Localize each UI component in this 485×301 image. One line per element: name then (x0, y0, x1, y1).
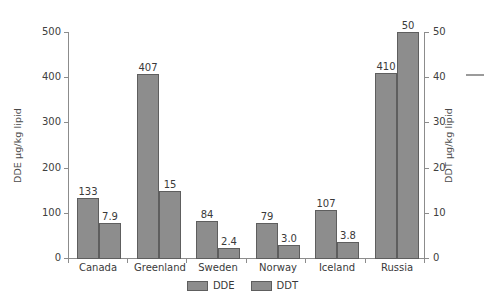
y-axis-title-right: DDT µg/kg lipid (443, 98, 454, 194)
bar-label-ddt-russia: 50 (388, 20, 428, 31)
y-ticklabel-left-0: 0 (27, 252, 61, 263)
legend-label-dde: DDE (213, 280, 235, 291)
y-ticklabel-left-100: 100 (27, 207, 61, 218)
bar-ddt-canada[interactable] (99, 223, 121, 259)
stray-rule-mark (466, 74, 484, 76)
y-axis-left-line (68, 32, 69, 259)
x-axis-label-norway: Norway (258, 262, 298, 273)
y-ticklabel-left-400: 400 (27, 71, 61, 82)
y-ticklabel-left-200: 200 (27, 162, 61, 173)
bar-label-dde-sweden: 84 (187, 209, 227, 220)
y-tick-right-30 (425, 122, 429, 123)
y-tick-right-10 (425, 213, 429, 214)
y-ticklabel-left-500: 500 (27, 26, 61, 37)
y-ticklabel-left-300: 300 (27, 116, 61, 127)
x-axis-label-iceland: Iceland (317, 262, 357, 273)
y-axis-title-left: DDE µg/kg lipid (12, 98, 23, 194)
y-tick-left-300 (64, 122, 68, 123)
bar-label-ddt-canada: 7.9 (90, 211, 130, 222)
bar-dde-canada[interactable] (77, 198, 99, 259)
bar-dde-greenland[interactable] (137, 74, 159, 259)
y-tick-left-400 (64, 77, 68, 78)
chart-legend: DDE DDT (0, 280, 485, 291)
y-ticklabel-right-50: 50 (433, 26, 467, 37)
y-ticklabel-right-20: 20 (433, 162, 467, 173)
y-tick-right-40 (425, 77, 429, 78)
y-ticklabel-right-10: 10 (433, 207, 467, 218)
x-tick-1 (127, 259, 128, 263)
y-ticklabel-right-40: 40 (433, 71, 467, 82)
y-ticklabel-right-0: 0 (433, 252, 467, 263)
y-tick-right-20 (425, 168, 429, 169)
bar-ddt-norway[interactable] (278, 245, 300, 259)
bar-label-dde-iceland: 107 (306, 198, 346, 209)
bar-label-ddt-iceland: 3.8 (328, 230, 368, 241)
y-tick-right-50 (425, 32, 429, 33)
bar-label-dde-greenland: 407 (128, 62, 168, 73)
y-tick-right-0 (425, 258, 429, 259)
x-tick-0 (68, 259, 69, 263)
x-tick-4 (305, 259, 306, 263)
x-tick-5 (365, 259, 366, 263)
bar-label-dde-canada: 133 (68, 186, 108, 197)
bar-label-ddt-greenland: 15 (150, 179, 190, 190)
y-ticklabel-right-30: 30 (433, 116, 467, 127)
y-axis-right-line (424, 32, 425, 259)
y-tick-left-100 (64, 213, 68, 214)
bar-label-dde-russia: 410 (366, 61, 406, 72)
bar-label-ddt-sweden: 2.4 (209, 236, 249, 247)
legend-label-ddt: DDT (277, 280, 299, 291)
x-axis-label-greenland: Greenland (134, 262, 184, 273)
bar-ddt-iceland[interactable] (337, 242, 359, 259)
bar-ddt-greenland[interactable] (159, 191, 181, 259)
x-tick-6 (424, 259, 425, 263)
legend-swatch-dde-icon (187, 281, 208, 291)
x-axis-label-canada: Canada (78, 262, 118, 273)
x-tick-2 (186, 259, 187, 263)
bar-label-ddt-norway: 3.0 (269, 233, 309, 244)
x-axis-label-sweden: Sweden (198, 262, 238, 273)
y-tick-left-200 (64, 168, 68, 169)
chart-container: DDE µg/kg lipid DDT µg/kg lipid 500 400 … (0, 0, 485, 301)
bar-dde-russia[interactable] (375, 73, 397, 259)
x-axis-label-russia: Russia (377, 262, 417, 273)
legend-item-dde[interactable]: DDE (187, 280, 235, 291)
y-tick-left-500 (64, 32, 68, 33)
bar-ddt-sweden[interactable] (218, 248, 240, 259)
bar-label-dde-norway: 79 (247, 211, 287, 222)
legend-item-ddt[interactable]: DDT (251, 280, 299, 291)
x-tick-3 (246, 259, 247, 263)
legend-swatch-ddt-icon (251, 281, 272, 291)
